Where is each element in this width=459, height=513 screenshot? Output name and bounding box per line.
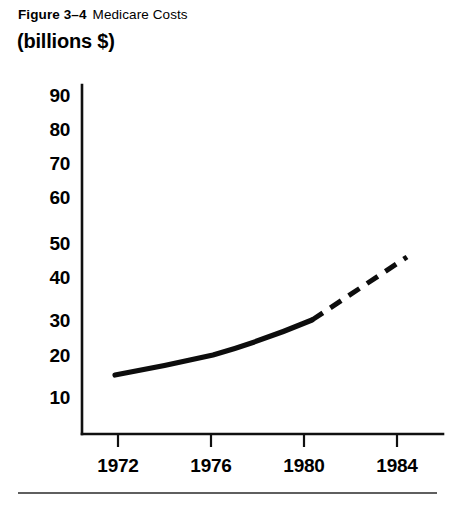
chart-plot [0,0,459,513]
y-tick-label-70: 70 [18,154,70,173]
x-tick-label-1976: 1976 [168,456,254,475]
y-tick-label-60: 60 [18,188,70,207]
series-line-projected [312,257,407,320]
x-tick-label-1984: 1984 [354,456,440,475]
figure-container: Figure 3–4Medicare Costs (billions $) 90… [0,0,459,513]
y-tick-label-90: 90 [18,86,70,105]
y-tick-label-40: 40 [18,268,70,287]
y-tick-label-50: 50 [18,234,70,253]
y-tick-label-20: 20 [18,346,70,365]
y-tick-label-80: 80 [18,120,70,139]
y-tick-label-30: 30 [18,311,70,330]
x-tick-label-1980: 1980 [261,456,347,475]
series-line-actual [115,320,312,375]
y-tick-label-10: 10 [18,388,70,407]
x-tick-label-1972: 1972 [75,456,161,475]
